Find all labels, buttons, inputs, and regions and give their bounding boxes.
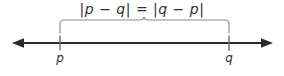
point-label-p: p (50, 52, 70, 65)
left-arrowhead-icon (12, 38, 24, 48)
brace-icon (60, 17, 229, 33)
point-label-q: q (219, 52, 239, 65)
number-line-graphic (0, 0, 284, 76)
right-arrowhead-icon (261, 38, 273, 48)
number-line-figure: |p − q| = |q − p| p q (0, 0, 284, 76)
